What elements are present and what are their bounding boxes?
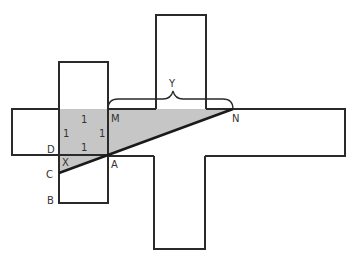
brace-y [108,91,233,109]
label-a: A [111,159,118,170]
cross-net-diagram: Y M N A D C B X 1 1 1 1 [0,0,355,260]
label-d: D [47,144,55,155]
label-m: M [111,113,120,124]
label-x: X [62,157,69,168]
label-b: B [47,195,54,206]
side-label-top: 1 [81,114,87,125]
bottom-tower [154,156,205,249]
side-label-left: 1 [63,128,69,139]
label-n: N [232,113,239,124]
top-tower [156,15,206,109]
side-label-bottom: 1 [81,142,87,153]
label-c: C [46,169,53,180]
label-y: Y [168,78,176,89]
side-label-right: 1 [99,128,105,139]
